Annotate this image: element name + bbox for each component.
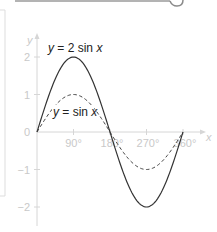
curve2-label: y = sin x bbox=[52, 105, 98, 119]
top-bar bbox=[15, 0, 183, 6]
chart-svg: y x 2 1 0 −1 −2 90° 180° 270° 360° y = 2… bbox=[0, 0, 217, 232]
y-tick-neg2: −2 bbox=[17, 201, 30, 213]
chart-figure: y x 2 1 0 −1 −2 90° 180° 270° 360° y = 2… bbox=[0, 0, 217, 232]
y-axis-arrow-icon bbox=[35, 33, 40, 39]
axes bbox=[34, 33, 206, 226]
x-axis-label: x bbox=[205, 131, 212, 143]
y-axis-label: y bbox=[26, 34, 34, 46]
curve1-label: y = 2 sin x bbox=[47, 41, 103, 55]
y-tick-1: 1 bbox=[24, 89, 30, 101]
x-tick-360: 360° bbox=[174, 137, 197, 149]
x-tick-90: 90° bbox=[65, 137, 82, 149]
curl-icon bbox=[170, 0, 183, 6]
y-tick-neg1: −1 bbox=[17, 164, 30, 176]
left-frame bbox=[0, 10, 5, 196]
y-tick-2: 2 bbox=[24, 51, 30, 63]
x-tick-270: 270° bbox=[137, 137, 160, 149]
y-tick-0: 0 bbox=[24, 126, 30, 138]
